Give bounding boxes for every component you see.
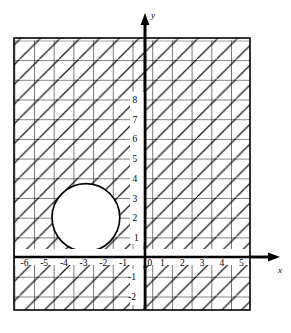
x-tick-label: -5 bbox=[40, 258, 48, 268]
y-axis-label: y bbox=[150, 10, 155, 20]
x-tick-label: -2 bbox=[99, 258, 107, 268]
y-tick-label: 4 bbox=[133, 174, 138, 184]
x-axis-label: x bbox=[277, 265, 282, 275]
y-tick-label: 8 bbox=[133, 95, 138, 105]
x-tick-label: 2 bbox=[180, 258, 185, 268]
y-tick-label: -1 bbox=[128, 272, 136, 282]
y-tick-label: 3 bbox=[133, 194, 138, 204]
y-tick-label: 7 bbox=[133, 115, 138, 125]
x-tick-label: 1 bbox=[160, 258, 165, 268]
x-tick-label: 3 bbox=[200, 258, 205, 268]
coordinate-plane-plot: -6 -5 -4 -3 -2 -1 0 1 2 3 4 5 8 7 6 5 4 … bbox=[0, 0, 291, 333]
x-tick-label: -1 bbox=[119, 258, 127, 268]
graph-figure: -6 -5 -4 -3 -2 -1 0 1 2 3 4 5 8 7 6 5 4 … bbox=[0, 0, 291, 333]
y-tick-label: -2 bbox=[128, 292, 136, 302]
x-tick-label: 4 bbox=[219, 258, 224, 268]
x-tick-label: -6 bbox=[21, 258, 29, 268]
x-tick-label: 5 bbox=[239, 258, 244, 268]
y-tick-label: 2 bbox=[133, 213, 138, 223]
x-tick-label: -3 bbox=[80, 258, 88, 268]
y-tick-label: 5 bbox=[133, 154, 138, 164]
y-tick-label: 6 bbox=[133, 134, 138, 144]
x-tick-label: -4 bbox=[60, 258, 68, 268]
x-tick-label: 0 bbox=[148, 258, 153, 268]
y-tick-label: 1 bbox=[134, 233, 139, 243]
